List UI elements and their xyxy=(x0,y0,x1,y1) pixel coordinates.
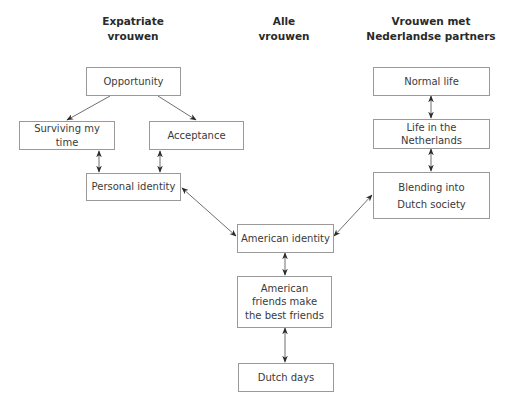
node-acceptance: Acceptance xyxy=(149,121,244,150)
arrow-opportunity-to-acceptance xyxy=(158,96,196,120)
header-all-line2: vrouwen xyxy=(258,29,309,44)
node-dutch-days: Dutch days xyxy=(238,363,334,392)
node-american-friends: American friends make the best friends xyxy=(237,276,332,328)
node-american-identity-label: American identity xyxy=(241,232,330,246)
node-opportunity: Opportunity xyxy=(86,67,181,96)
arrow-personal-identity-american-identity xyxy=(182,188,236,236)
node-surviving-my-time: Surviving my time xyxy=(19,121,115,150)
node-normal-life: Normal life xyxy=(373,67,490,96)
node-life-in-the-netherlands: Life in the Netherlands xyxy=(373,119,490,149)
node-opportunity-label: Opportunity xyxy=(103,75,163,89)
arrow-blending-american-identity xyxy=(334,195,372,236)
header-expatriate-line1: Expatriate xyxy=(102,14,164,29)
header-all-line1: Alle xyxy=(258,14,309,29)
node-blending-into-dutch-society: Blending into Dutch society xyxy=(373,172,490,219)
header-expatriate-line2: vrouwen xyxy=(102,29,164,44)
header-women-dutch-partners: Vrouwen met Nederlandse partners xyxy=(366,14,495,44)
arrow-opportunity-to-surviving xyxy=(67,96,110,120)
header-dutch-partners-line2: Nederlandse partners xyxy=(366,29,495,44)
header-dutch-partners-line1: Vrouwen met xyxy=(366,14,495,29)
node-surviving-label: Surviving my time xyxy=(23,122,111,149)
node-normal-life-label: Normal life xyxy=(404,75,459,89)
header-expatriate-women: Expatriate vrouwen xyxy=(102,14,164,44)
node-life-netherlands-label: Life in the Netherlands xyxy=(377,121,486,148)
node-american-friends-label: American friends make the best friends xyxy=(244,282,325,323)
node-acceptance-label: Acceptance xyxy=(167,129,225,143)
header-all-women: Alle vrouwen xyxy=(258,14,309,44)
node-dutch-days-label: Dutch days xyxy=(258,371,315,385)
node-personal-identity: Personal identity xyxy=(86,173,181,201)
node-blending-label: Blending into Dutch society xyxy=(386,179,477,213)
node-personal-identity-label: Personal identity xyxy=(92,180,176,194)
node-american-identity: American identity xyxy=(237,224,334,253)
